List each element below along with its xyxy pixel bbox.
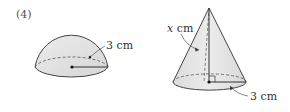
cone-slant-label: x cm (167, 23, 193, 34)
cone-radius-label: 3 cm (250, 91, 277, 102)
hemisphere-radius-label: 3 cm (106, 40, 133, 51)
figures (0, 0, 290, 112)
hemisphere (35, 35, 108, 77)
slant-unit: cm (173, 22, 193, 35)
